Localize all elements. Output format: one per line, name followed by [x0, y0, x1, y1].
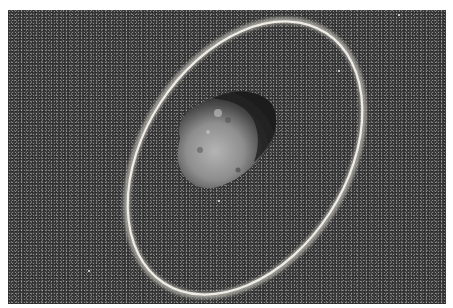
asteroid	[178, 91, 277, 188]
ring-and-asteroid	[8, 10, 446, 304]
space-render-image	[8, 10, 446, 304]
